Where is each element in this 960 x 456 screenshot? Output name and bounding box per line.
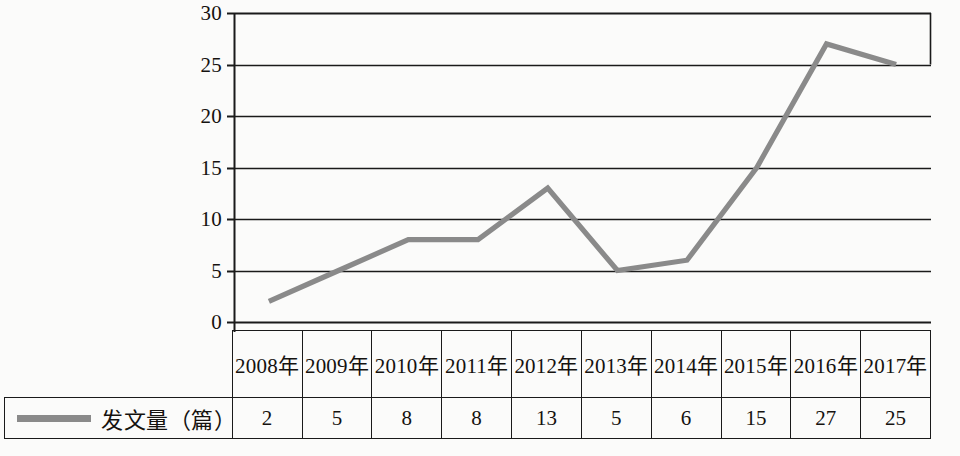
table-cell-value: 15 [721,398,791,439]
table-cell-year: 2013年 [581,331,651,398]
table-cell-value: 8 [442,398,512,439]
legend-label: 发文量（篇） [101,402,236,434]
table-cell-year: 2014年 [651,331,721,398]
table-cell-value: 8 [372,398,442,439]
gridlines [234,13,931,323]
table-cell-year: 2011年 [442,331,512,398]
table-cell-value: 13 [512,398,582,439]
legend-spacer-cell [5,331,233,398]
legend-cell: 发文量（篇） [5,398,233,439]
data-table: 2008年2009年2010年2011年2012年2013年2014年2015年… [4,330,931,439]
table-cell-year: 2009年 [302,331,372,398]
table-cell-value: 5 [581,398,651,439]
table-row-years: 2008年2009年2010年2011年2012年2013年2014年2015年… [5,331,931,398]
series-line-fawenliang [269,44,896,302]
legend-line-swatch-icon [17,415,91,422]
table-row-values: 发文量（篇） 25881356152725 [5,398,931,439]
line-chart: 302520151050 [0,0,960,340]
table-cell-year: 2017年 [861,331,931,398]
table-cell-year: 2012年 [512,331,582,398]
table-cell-value: 5 [302,398,372,439]
table-cell-year: 2016年 [791,331,861,398]
table-cell-year: 2015年 [721,331,791,398]
plot-canvas [0,0,960,340]
table-cell-value: 27 [791,398,861,439]
axis-ticks [227,14,234,323]
table-cell-value: 2 [232,398,302,439]
chart-page: 302520151050 2008年2009年2010年2011年2012年20… [0,0,960,456]
table-cell-value: 6 [651,398,721,439]
table-cell-value: 25 [861,398,931,439]
table-cell-year: 2008年 [232,331,302,398]
table-cell-year: 2010年 [372,331,442,398]
